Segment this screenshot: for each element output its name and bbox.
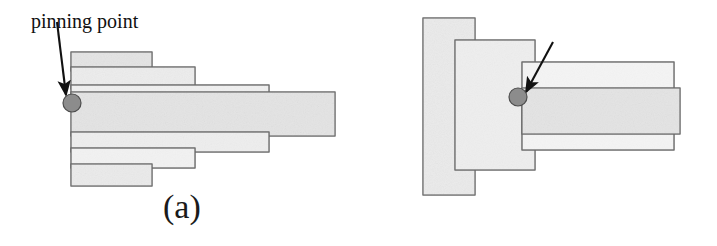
panel-b-drawing xyxy=(360,0,717,246)
pinning-point-marker xyxy=(509,88,527,106)
bar-stack-a xyxy=(71,52,335,186)
bar-bottom-1 xyxy=(71,164,152,186)
pinning-point-marker xyxy=(63,94,81,112)
block-long-bar xyxy=(522,88,680,134)
panel-b: pinning point (b) xyxy=(360,0,717,246)
figure-root: pinning point (a) xyxy=(0,0,717,246)
panel-a: pinning point (a) xyxy=(0,0,360,246)
pinning-point-label: pinning point xyxy=(31,11,138,31)
pinning-point-arrow xyxy=(57,22,66,95)
bar-center xyxy=(71,92,335,136)
panel-caption-a: (a) xyxy=(163,190,201,224)
